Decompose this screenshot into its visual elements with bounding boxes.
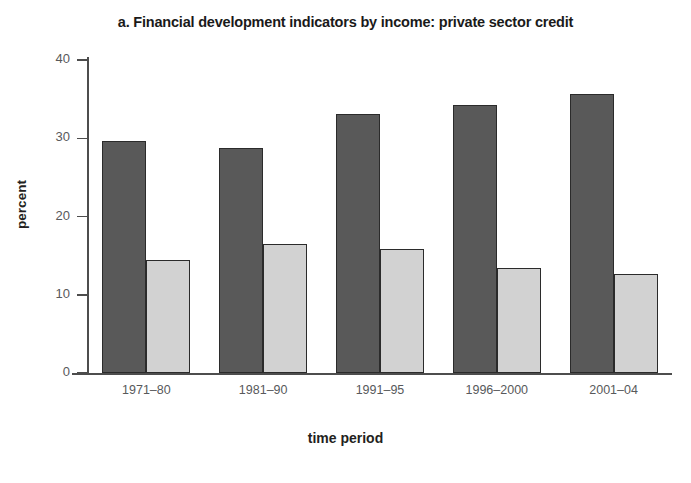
y-axis-tick xyxy=(77,138,88,140)
y-axis-tick-label: 30 xyxy=(24,129,70,144)
y-axis-tick-label: 20 xyxy=(24,208,70,223)
x-axis-tick-label: 2001–04 xyxy=(555,383,672,397)
bar-1991-95-series-2 xyxy=(380,249,424,373)
y-axis-tick-label: 40 xyxy=(24,51,70,66)
bar-1996-2000-series-1 xyxy=(453,105,497,373)
bar-1971-80-series-1 xyxy=(102,141,146,373)
bar-1996-2000-series-2 xyxy=(497,268,541,373)
y-axis-title: percent xyxy=(14,155,29,255)
bar-1991-95-series-1 xyxy=(336,114,380,373)
page-title: a. Financial development indicators by i… xyxy=(0,14,691,30)
bar-1981-90-series-1 xyxy=(219,148,263,373)
y-axis-tick-label: 0 xyxy=(24,364,70,379)
y-axis-tick xyxy=(77,216,88,218)
x-axis-tick-label: 1971–80 xyxy=(88,383,205,397)
y-axis-tick xyxy=(77,294,88,296)
chart-figure: a. Financial development indicators by i… xyxy=(0,0,691,483)
x-axis-tick-label: 1981–90 xyxy=(205,383,322,397)
x-axis-tick-label: 1996–2000 xyxy=(438,383,555,397)
y-axis-tick xyxy=(77,372,88,374)
bar-2001-04-series-1 xyxy=(570,94,614,373)
y-axis-tick xyxy=(77,59,88,61)
bar-1971-80-series-2 xyxy=(146,260,190,373)
plot-area xyxy=(88,60,672,373)
bar-2001-04-series-2 xyxy=(614,274,658,373)
x-axis-title: time period xyxy=(0,430,691,446)
x-axis-tick-label: 1991–95 xyxy=(322,383,439,397)
x-axis-line xyxy=(72,373,672,375)
bar-1981-90-series-2 xyxy=(263,244,307,373)
y-axis-tick-label: 10 xyxy=(24,286,70,301)
